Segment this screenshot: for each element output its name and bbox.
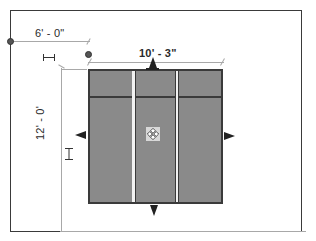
arrow-left-grip[interactable] (75, 131, 86, 139)
boundary-bottom-edge (10, 231, 60, 232)
vertical-mullion-right[interactable] (175, 71, 179, 202)
move-handle-icon[interactable] (146, 127, 160, 141)
bottom-dimension-line (60, 231, 306, 232)
arrow-down-grip[interactable] (150, 205, 158, 216)
offset-dimension-line[interactable] (11, 41, 90, 42)
height-dimension-extension-top (61, 69, 87, 70)
arrow-up-grip[interactable] (149, 57, 157, 68)
vertical-mullion-left[interactable] (132, 71, 136, 202)
dimension-lock-icon-offset[interactable] (43, 47, 55, 54)
offset-dimension-tick (86, 38, 90, 45)
arrow-up-grip-base (146, 68, 159, 70)
horizontal-mullion[interactable] (90, 96, 221, 98)
width-dimension-tick-right (220, 58, 225, 65)
height-dimension-line[interactable] (61, 68, 62, 232)
boundary-top-edge (10, 10, 302, 11)
width-dimension-label[interactable]: 10' - 3" (139, 47, 177, 59)
offset-start-grip[interactable] (7, 38, 14, 45)
offset-dimension-label[interactable]: 6' - 0" (35, 27, 64, 39)
dimension-lock-icon-height[interactable] (63, 146, 75, 158)
height-dimension-label[interactable]: 12' - 0' (34, 106, 46, 140)
boundary-right-edge (301, 10, 302, 232)
arrow-right-grip[interactable] (224, 132, 235, 140)
offset-end-grip[interactable] (85, 51, 92, 58)
